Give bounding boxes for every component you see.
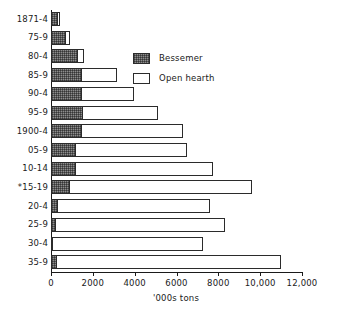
bar-segment-bessemer [51,162,76,176]
x-tick-mark [218,272,219,276]
y-axis-category-label: 05-9 [0,145,48,155]
x-tick-label: 4000 [123,278,145,288]
y-axis-category-label: *15-19 [0,182,48,192]
bar-segment-open-hearth [51,199,210,213]
x-axis-title: '000s tons [153,293,199,303]
y-axis-category-label: 75-9 [0,32,48,42]
bar-segment-bessemer [51,199,58,213]
bar-segment-bessemer [51,68,82,82]
bar-segment-bessemer [51,124,82,138]
y-axis-category-label: 35-9 [0,257,48,267]
steel-production-bar-chart: 0200040006000800010,00012,000 1871-475-9… [0,0,358,315]
bar-segment-bessemer [51,237,53,251]
x-tick-mark [177,272,178,276]
y-axis-category-label: 1871-4 [0,14,48,24]
bar-segment-bessemer [51,106,83,120]
legend-swatch-open-hearth-icon [133,73,150,84]
bar-segment-bessemer [51,12,58,26]
legend-item-open-hearth: Open hearth [133,68,215,88]
bar-segment-bessemer [51,87,82,101]
bar-segment-open-hearth [51,180,252,194]
y-axis-category-label: 10-14 [0,163,48,173]
legend-item-bessemer: Bessemer [133,48,215,68]
chart-legend: Bessemer Open hearth [133,48,215,88]
bar-segment-open-hearth [51,218,225,232]
y-axis-category-label: 85-9 [0,70,48,80]
x-tick-label: 2000 [82,278,104,288]
y-axis-category-label: 90-4 [0,88,48,98]
x-tick-label: 0 [48,278,54,288]
legend-label-bessemer: Bessemer [159,53,203,63]
x-tick-mark [260,272,261,276]
y-axis-category-label: 95-9 [0,107,48,117]
bar-segment-bessemer [51,180,70,194]
x-tick-label: 8000 [207,278,229,288]
y-axis-category-label: 20-4 [0,201,48,211]
bar-segment-bessemer [51,31,66,45]
bar-segment-open-hearth [51,255,281,269]
bar-segment-bessemer [51,218,56,232]
bar-segment-bessemer [51,49,78,63]
x-tick-label: 6000 [165,278,187,288]
legend-swatch-bessemer-icon [133,53,150,64]
x-tick-mark [51,272,52,276]
y-axis-category-label: 25-9 [0,219,48,229]
x-tick-label: 10,000 [245,278,276,288]
bar-segment-bessemer [51,255,57,269]
x-tick-mark [135,272,136,276]
x-tick-mark [93,272,94,276]
y-axis-category-label: 1900-4 [0,126,48,136]
bar-segment-open-hearth [51,237,203,251]
legend-label-open-hearth: Open hearth [159,73,215,83]
x-tick-mark [302,272,303,276]
y-axis-category-label: 30-4 [0,238,48,248]
y-axis-category-label: 80-4 [0,51,48,61]
bar-segment-bessemer [51,143,76,157]
x-tick-label: 12,000 [287,278,318,288]
